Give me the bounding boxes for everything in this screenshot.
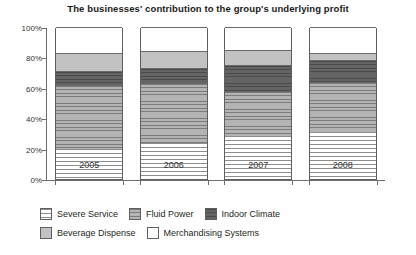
x-axis-tick [292, 180, 293, 185]
x-axis-tick [140, 180, 141, 185]
y-axis-label: 80% [6, 54, 42, 63]
legend-item-indoor[interactable]: Indoor Climate [205, 208, 281, 220]
legend-item-severe[interactable]: Severe Service [40, 208, 118, 220]
legend-label: Severe Service [57, 209, 118, 219]
y-axis-tick [42, 150, 47, 151]
bar-2008 [309, 28, 377, 180]
y-axis-tick [42, 89, 47, 90]
y-axis-label: 40% [6, 115, 42, 124]
legend-label: Merchandising Systems [164, 228, 260, 238]
y-axis-tick [42, 58, 47, 59]
legend-label: Fluid Power [146, 209, 194, 219]
bar-segment [141, 27, 207, 51]
bar-segment [225, 91, 291, 137]
legend-label: Beverage Dispense [57, 228, 136, 238]
bar-segment [310, 53, 376, 61]
legend-swatch-icon [147, 227, 159, 239]
bar-segment [141, 68, 207, 83]
x-axis-label-2006: 2006 [164, 160, 184, 170]
bar-segment [56, 53, 122, 71]
y-axis-label: 20% [6, 145, 42, 154]
legend-swatch-icon [129, 208, 141, 220]
legend-row: Severe ServiceFluid PowerIndoor Climate [40, 204, 380, 223]
y-axis-line [46, 28, 47, 181]
chart-title: The businesses' contribution to the grou… [0, 3, 416, 14]
legend-label: Indoor Climate [222, 209, 281, 219]
legend-item-merch[interactable]: Merchandising Systems [147, 227, 260, 239]
bar-segment [56, 85, 122, 149]
x-axis-label-2008: 2008 [333, 160, 353, 170]
bar-segment [141, 83, 207, 142]
chart-legend: Severe ServiceFluid PowerIndoor ClimateB… [40, 204, 380, 242]
bar-segment [56, 27, 122, 53]
bar-segment [310, 132, 376, 179]
bar-segment [225, 65, 291, 91]
x-axis-tick [208, 180, 209, 185]
x-axis-tick [123, 180, 124, 185]
x-axis-tick [309, 180, 310, 185]
legend-item-fluid[interactable]: Fluid Power [129, 208, 194, 220]
plot-area [47, 28, 385, 180]
bar-segment [310, 60, 376, 81]
legend-swatch-icon [40, 227, 52, 239]
bar-segment [225, 50, 291, 65]
x-axis-label-2007: 2007 [248, 160, 268, 170]
y-axis-tick [42, 28, 47, 29]
bar-segment [141, 51, 207, 68]
y-axis-tick [42, 180, 47, 181]
chart-container: The businesses' contribution to the grou… [0, 0, 416, 255]
bar-segment [310, 27, 376, 53]
bar-2007 [224, 28, 292, 180]
y-axis-label: 0% [6, 176, 42, 185]
bar-2005 [55, 28, 123, 180]
x-axis-line [46, 180, 385, 181]
legend-swatch-icon [205, 208, 217, 220]
legend-item-beverage[interactable]: Beverage Dispense [40, 227, 136, 239]
legend-swatch-icon [40, 208, 52, 220]
y-axis-label: 60% [6, 84, 42, 93]
x-axis-tick [377, 180, 378, 185]
bar-segment [225, 136, 291, 179]
bar-segment [310, 82, 376, 132]
y-axis-label: 100% [6, 24, 42, 33]
x-axis-label-2005: 2005 [79, 160, 99, 170]
legend-row: Beverage DispenseMerchandising Systems [40, 223, 380, 242]
x-axis-tick [224, 180, 225, 185]
x-axis-tick [55, 180, 56, 185]
y-axis-tick [42, 119, 47, 120]
bar-segment [225, 27, 291, 50]
bar-2006 [140, 28, 208, 180]
bar-segment [56, 71, 122, 85]
